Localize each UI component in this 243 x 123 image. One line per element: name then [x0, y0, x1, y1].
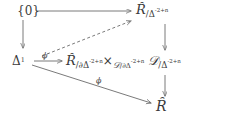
fiber-left-script-glyph: Ȓ [66, 53, 76, 68]
fiber-product-object: Ȓ/∂Δ-2+n×𝒟/∂Δ-2+n𝒟/Δ-2+n [66, 54, 181, 67]
phi-prime-label: ϕ′ [42, 51, 49, 60]
delta-one-base: Δ [12, 54, 21, 68]
phi-label: ϕ [96, 76, 101, 85]
c-over-delta-base: Δ [149, 9, 155, 19]
fiber-left-exponent: -2+n [89, 58, 103, 64]
fiber-right-script-glyph: 𝒟 [148, 53, 158, 68]
fiber-mid-exponent: -2+n [131, 58, 145, 64]
phi-symbol: ϕ [96, 76, 101, 85]
c-over-delta-exponent: -2+n [155, 7, 169, 13]
c-target-script-glyph: Ȓ [156, 98, 167, 114]
zero-object: {0} [17, 5, 40, 17]
c-over-delta-object: Ȓ/Δ-2+n [136, 3, 168, 16]
c-script-glyph: Ȓ [136, 2, 146, 17]
delta-one-object: Δ1 [12, 55, 25, 67]
arrow-delta1-to-c-over-delta-dashed [42, 21, 131, 56]
fiber-mid-script-glyph: 𝒟 [113, 60, 120, 70]
commutative-diagram: {0} Δ1 Ȓ/Δ-2+n Ȓ/∂Δ-2+n×𝒟/∂Δ-2+n𝒟/Δ-2+n … [0, 0, 243, 123]
fiber-left-boundary: ∂Δ [79, 60, 90, 70]
fiber-times-symbol: × [103, 54, 113, 68]
zero-object-text: {0} [17, 4, 40, 18]
fiber-right-exponent: -2+n [167, 58, 181, 64]
c-target-object: Ȓ [156, 99, 167, 113]
phi-prime-mark: ′ [47, 52, 49, 60]
delta-one-exponent: 1 [21, 56, 25, 64]
fiber-mid-boundary: ∂Δ [122, 62, 131, 70]
arrow-delta1-to-c-target [32, 65, 151, 103]
